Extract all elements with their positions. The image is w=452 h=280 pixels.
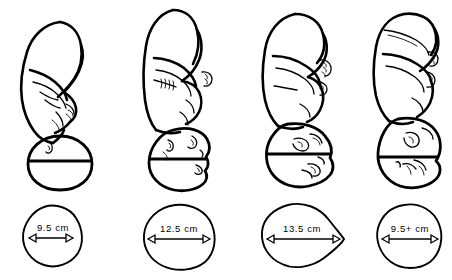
- fetus-drawing-4: [362, 0, 452, 200]
- cross-section-3: 13.5 cm: [240, 198, 362, 278]
- panel-3: 13.5 cm: [240, 0, 362, 280]
- cross-section-4: 9.5+ cm: [362, 198, 452, 278]
- panel-4: 9.5+ cm: [362, 0, 452, 280]
- measurement-label-3: 13.5 cm: [283, 223, 321, 234]
- fetal-attitude-figure: 9.5 cm: [0, 0, 452, 280]
- cross-section-2: 12.5 cm: [118, 198, 240, 278]
- panel-2: 12.5 cm: [118, 0, 240, 280]
- cross-section-1: 9.5 cm: [0, 198, 118, 278]
- diameter-arrow-4: [382, 235, 438, 243]
- diameter-arrow-3: [267, 235, 340, 243]
- diameter-arrow-1: [29, 234, 73, 242]
- measurement-label-1: 9.5 cm: [37, 222, 69, 233]
- measurement-label-2: 12.5 cm: [160, 223, 198, 234]
- measurement-label-4: 9.5+ cm: [391, 223, 429, 234]
- panel-1: 9.5 cm: [0, 0, 118, 280]
- fetus-drawing-3: [240, 0, 362, 200]
- fetus-drawing-1: [0, 0, 118, 200]
- fetus-drawing-2: [118, 0, 240, 200]
- diameter-arrow-2: [148, 235, 210, 243]
